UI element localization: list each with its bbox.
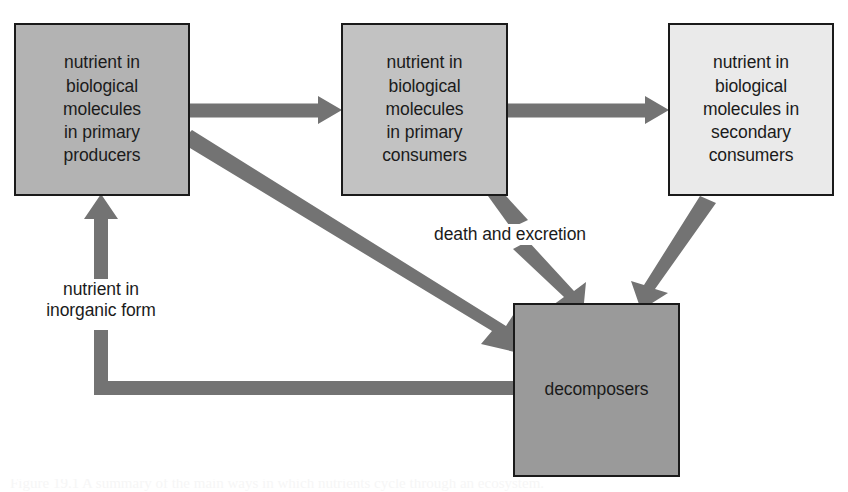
edge-producers-to-primary-consumers [190, 96, 342, 124]
node-secondary-consumers[interactable]: nutrient in biological molecules in seco… [668, 23, 834, 196]
edge-label-nutrient-in-inorganic-form: nutrient in inorganic form [22, 279, 180, 322]
node-secondary-consumers-label: nutrient in biological molecules in seco… [697, 51, 805, 167]
node-primary-consumers-label: nutrient in biological molecules in prim… [376, 51, 473, 167]
edge-decomposers-to-producers-arrowhead [84, 194, 118, 279]
edge-decomposers-to-producers-elbow [94, 330, 513, 395]
node-primary-consumers[interactable]: nutrient in biological molecules in prim… [341, 23, 508, 196]
node-primary-producers-label: nutrient in biological molecules in prim… [57, 51, 147, 167]
edge-secondary-consumers-to-decomposers [631, 196, 716, 310]
edge-primary-to-secondary-consumers [508, 96, 669, 124]
node-decomposers-label: decomposers [539, 378, 655, 401]
diagram-canvas: nutrient in biological molecules in prim… [0, 0, 848, 492]
figure-caption-strip: Figure 19.1 A summary of the main ways i… [0, 479, 848, 492]
node-decomposers[interactable]: decomposers [513, 303, 680, 477]
node-primary-producers[interactable]: nutrient in biological molecules in prim… [14, 23, 190, 196]
figure-caption: Figure 19.1 A summary of the main ways i… [10, 479, 544, 492]
edge-label-death-and-excretion: death and excretion [417, 224, 603, 245]
